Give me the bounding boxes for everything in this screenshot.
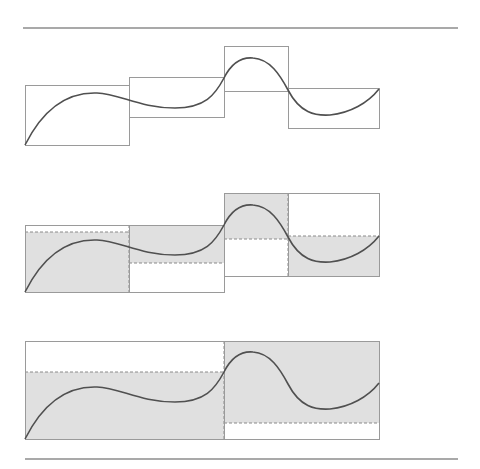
function-curve	[25, 58, 379, 145]
interval-fill	[25, 232, 129, 292]
panel-3	[25, 341, 380, 440]
interval-fill	[25, 372, 224, 439]
interval-fill	[288, 236, 379, 276]
panel-2	[25, 193, 380, 293]
panels	[25, 47, 380, 440]
bounding-box	[225, 47, 289, 92]
diagram-canvas	[0, 0, 480, 469]
interval-fill	[224, 341, 379, 423]
interval-fill	[224, 193, 288, 239]
panel-1	[25, 47, 380, 146]
